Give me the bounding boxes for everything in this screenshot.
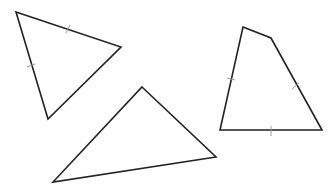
quadrilateral-right-outline — [220, 27, 322, 130]
triangle-bottom-outline — [53, 87, 216, 182]
triangle-top-left — [16, 12, 121, 119]
quadrilateral-right — [220, 27, 322, 136]
figure-svg — [0, 0, 333, 193]
geometry-figure — [0, 0, 333, 193]
triangle-bottom — [53, 87, 216, 182]
